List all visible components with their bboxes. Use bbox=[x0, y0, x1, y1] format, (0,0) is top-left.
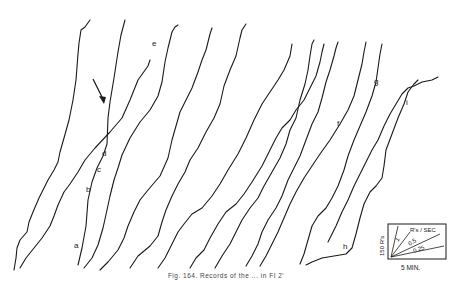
cumulative-curve bbox=[260, 42, 366, 266]
cumulative-curve bbox=[190, 44, 324, 268]
y-scale-label: 150 R's bbox=[379, 236, 385, 256]
cumulative-curve bbox=[158, 44, 292, 268]
curve-label-e: e bbox=[152, 39, 157, 48]
cumulative-curve bbox=[14, 20, 90, 270]
x-scale-label: 5 MIN. bbox=[401, 264, 420, 271]
cumulative-curve bbox=[130, 24, 246, 268]
curve-label-g: g bbox=[374, 77, 378, 86]
rate-scale-legend: R's / SEC 1 0.5 0.25 150 R's 5 MIN. bbox=[379, 224, 446, 271]
cumulative-curve bbox=[328, 77, 438, 242]
cumulative-curve bbox=[20, 60, 150, 268]
curve-label-h: h bbox=[343, 242, 347, 251]
cumulative-curve bbox=[100, 28, 212, 270]
rate-title: R's / SEC bbox=[410, 227, 436, 233]
cumulative-curve bbox=[215, 40, 314, 268]
curve-label-b: b bbox=[86, 185, 91, 194]
figure-caption: Fig. 164. Records of the ... in FI 2' bbox=[0, 272, 452, 279]
curve-label-d: d bbox=[102, 149, 106, 158]
curve-label-a: a bbox=[74, 241, 79, 250]
cumulative-curve bbox=[306, 80, 418, 265]
cumulative-curve bbox=[246, 42, 338, 266]
cumulative-curve bbox=[78, 20, 125, 265]
pointer-arrow bbox=[93, 79, 106, 104]
cumulative-curve bbox=[84, 25, 178, 268]
curve-label-f: f bbox=[337, 119, 340, 128]
rate-0-25: 0.25 bbox=[412, 244, 426, 254]
rate-1: 1 bbox=[394, 236, 401, 243]
curve-label-c: c bbox=[97, 165, 101, 174]
curve-label-i: i bbox=[406, 98, 408, 107]
cumulative-records-plot: a b c d e f g h i R's / SEC 1 0.5 0.25 1… bbox=[0, 0, 452, 283]
cumulative-record-figure: a b c d e f g h i R's / SEC 1 0.5 0.25 1… bbox=[0, 0, 452, 283]
